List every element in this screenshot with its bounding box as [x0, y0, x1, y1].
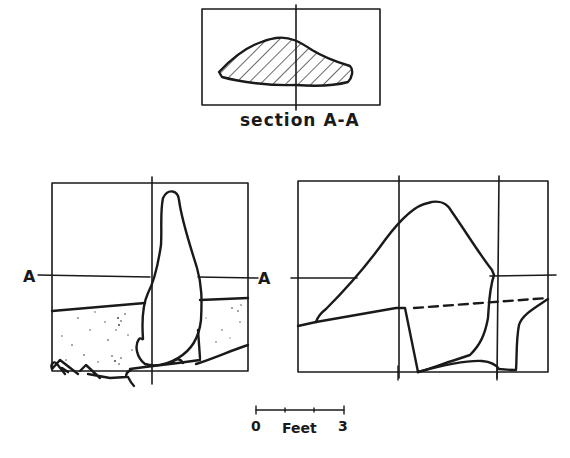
jagged-rocks — [51, 360, 134, 386]
scale-end-label: 3 — [338, 418, 348, 434]
section-line-right — [198, 277, 258, 278]
right-grid-horizontal-right — [490, 275, 556, 276]
diagram-canvas: section A-A A A — [0, 0, 570, 458]
boulder-outline — [316, 202, 494, 372]
left-elevation: A A — [23, 177, 271, 386]
scale-unit-label: Feet — [282, 420, 317, 436]
boulder-outline — [137, 191, 202, 365]
ground-line — [298, 308, 418, 372]
scale-bar: 0 Feet 3 — [251, 406, 348, 436]
section-profile — [219, 38, 352, 86]
ground-surface-line — [52, 303, 145, 311]
right-grid-vertical-2 — [497, 176, 499, 378]
right-frame — [298, 181, 548, 372]
dashed-reference-line — [414, 298, 548, 308]
section-view: section A-A — [202, 5, 380, 130]
section-marker-left: A — [23, 267, 36, 286]
ground-surface-line-right — [200, 298, 248, 300]
rock-support-line — [198, 330, 200, 358]
bedrock-line — [196, 345, 248, 364]
scale-start-label: 0 — [251, 418, 261, 434]
section-marker-right: A — [258, 269, 271, 288]
section-line-left — [38, 275, 150, 277]
section-caption: section A-A — [240, 110, 360, 130]
right-bank-line — [512, 299, 548, 370]
right-elevation — [291, 176, 556, 380]
